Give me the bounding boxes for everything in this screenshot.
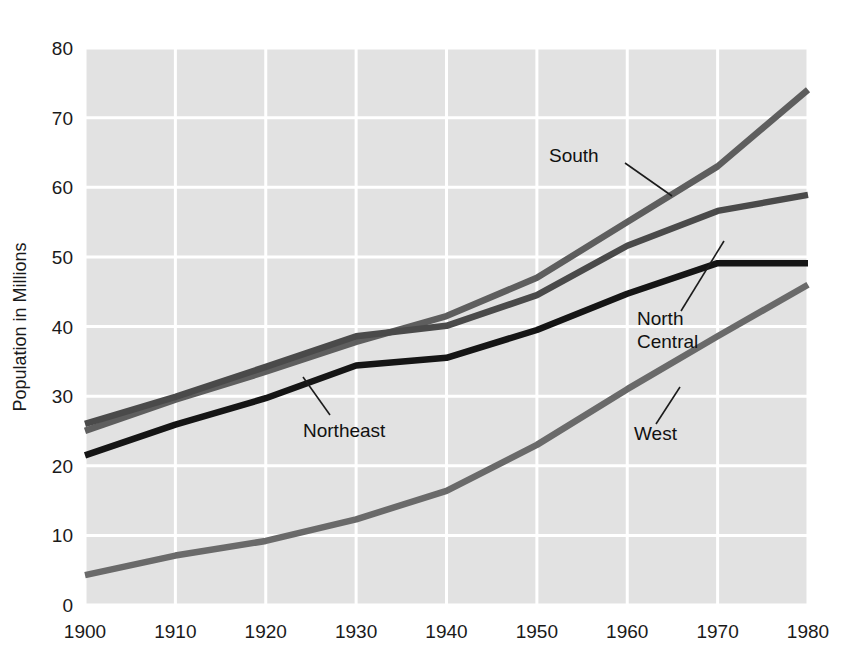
y-axis-tick-label: 80 (52, 38, 73, 59)
series-label-north: North (637, 308, 683, 329)
x-axis-tick-label: 1970 (696, 621, 738, 642)
y-axis-tick-label: 10 (52, 525, 73, 546)
x-axis-tick-label: 1930 (335, 621, 377, 642)
y-axis-tick-label: 20 (52, 456, 73, 477)
series-label-south: South (549, 145, 599, 166)
population-line-chart-figure: 01020304050607080 1900191019201930194019… (0, 0, 845, 658)
x-axis-tick-label: 1940 (425, 621, 467, 642)
x-axis-tick-label: 1920 (245, 621, 287, 642)
series-label-northeast: Northeast (303, 420, 386, 441)
x-axis-tick-label: 1950 (516, 621, 558, 642)
x-axis-tick-label: 1900 (64, 621, 106, 642)
y-axis-tick-labels: 01020304050607080 (52, 38, 73, 616)
x-axis-tick-labels: 190019101920193019401950196019701980 (64, 621, 829, 642)
x-axis-tick-label: 1910 (154, 621, 196, 642)
y-axis-tick-label: 0 (62, 595, 73, 616)
y-axis-title: Population in Millions (10, 242, 30, 411)
chart-canvas: 01020304050607080 1900191019201930194019… (0, 0, 845, 658)
series-label-central: Central (637, 331, 698, 352)
y-axis-tick-label: 40 (52, 317, 73, 338)
x-axis-tick-label: 1960 (606, 621, 648, 642)
y-axis-tick-label: 50 (52, 247, 73, 268)
y-axis-tick-label: 60 (52, 177, 73, 198)
x-axis-tick-label: 1980 (787, 621, 829, 642)
y-axis-tick-label: 70 (52, 108, 73, 129)
y-axis-tick-label: 30 (52, 386, 73, 407)
series-label-west: West (634, 423, 678, 444)
